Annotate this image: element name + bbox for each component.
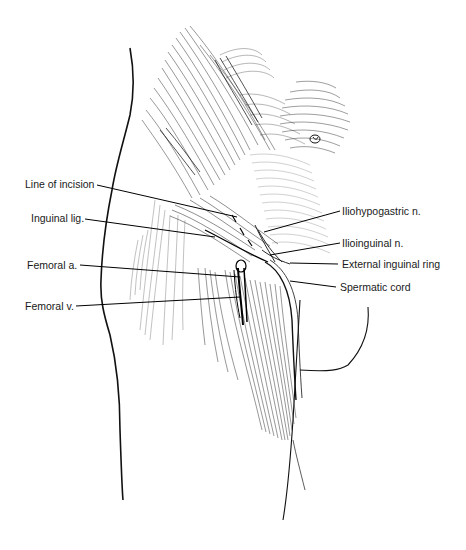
umbilicus-icon [310,135,320,143]
label-iliohypogastric-n: Iliohypogastric n. [342,205,421,217]
thigh-outline-right [283,300,300,520]
label-line-of-incision: Line of incision [25,178,94,190]
femoral-vessels [234,260,247,325]
leader-spermatic-cord [290,281,336,287]
leader-femoral-a [80,265,240,277]
external-oblique-hatching [142,26,275,198]
body-outline-left [101,48,133,500]
label-inguinal-lig: Inguinal lig. [31,212,84,224]
label-femoral-a: Femoral a. [27,259,77,271]
scrotum-outline [300,307,368,371]
leader-ilioinguinal-n [270,243,340,255]
oblique-shading-dark [160,56,262,175]
thigh-outline-medial [293,440,305,490]
label-spermatic-cord: Spermatic cord [340,281,411,293]
label-femoral-v: Femoral v. [25,300,74,312]
label-external-inguinal-ring: External inguinal ring [342,258,440,270]
umbilicus-hatching [280,81,350,153]
spermatic-cord [265,260,302,400]
upper-fibres [220,49,305,144]
leader-line-of-incision [97,185,237,217]
leader-femoral-v [76,297,240,306]
leader-external-inguinal-ring [290,263,338,264]
anatomy-illustration: Line of incisionInguinal lig.Femoral a.F… [0,0,466,550]
label-ilioinguinal-n: Ilioinguinal n. [342,237,403,249]
leader-iliohypogastric-n [264,211,340,232]
thigh-muscle-fibres [198,268,296,440]
groin-drawing [0,0,466,550]
